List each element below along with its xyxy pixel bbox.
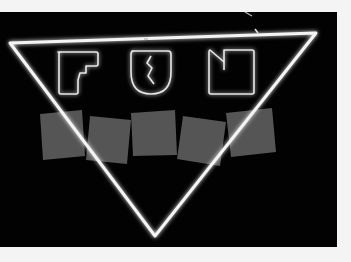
letter-u-crack	[147, 56, 154, 84]
gray-squares	[40, 108, 276, 166]
letter-n	[209, 50, 254, 94]
wire	[255, 29, 258, 33]
letter-f	[58, 52, 98, 94]
neon-sign-photo	[0, 12, 337, 247]
square-2	[86, 116, 131, 164]
wire	[245, 12, 252, 16]
square-4	[177, 116, 226, 166]
connector	[144, 38, 148, 40]
square-3	[131, 110, 177, 156]
neon-sign-graphic	[0, 12, 337, 247]
fun-letters	[58, 50, 254, 94]
